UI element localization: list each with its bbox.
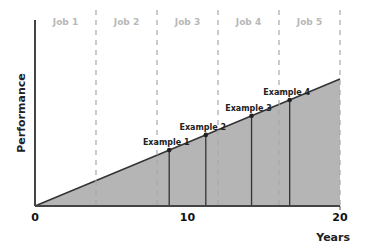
y-axis-label: Performance bbox=[15, 73, 28, 152]
x-tick-label: 0 bbox=[31, 211, 39, 224]
x-tick-labels: 01020 bbox=[31, 211, 348, 224]
example-label: Example 1 bbox=[143, 138, 190, 147]
x-axis-label: Years bbox=[315, 231, 350, 244]
job-label: Job 3 bbox=[174, 17, 200, 27]
example-label: Example 3 bbox=[225, 104, 272, 113]
job-label: Job 2 bbox=[113, 17, 139, 27]
example-point bbox=[249, 114, 254, 119]
example-label: Example 4 bbox=[263, 88, 310, 97]
example-point bbox=[167, 148, 172, 153]
job-label: Job 5 bbox=[296, 17, 322, 27]
job-label: Job 4 bbox=[235, 17, 261, 27]
x-tick-label: 10 bbox=[180, 211, 196, 224]
job-label: Job 1 bbox=[52, 17, 78, 27]
x-tick-label: 20 bbox=[332, 211, 348, 224]
example-label: Example 2 bbox=[179, 123, 226, 132]
job-labels: Job 1Job 2Job 3Job 4Job 5 bbox=[52, 17, 322, 27]
example-point bbox=[287, 98, 292, 103]
performance-chart: Job 1Job 2Job 3Job 4Job 5 Example 1Examp… bbox=[0, 0, 365, 251]
example-point bbox=[204, 133, 209, 138]
